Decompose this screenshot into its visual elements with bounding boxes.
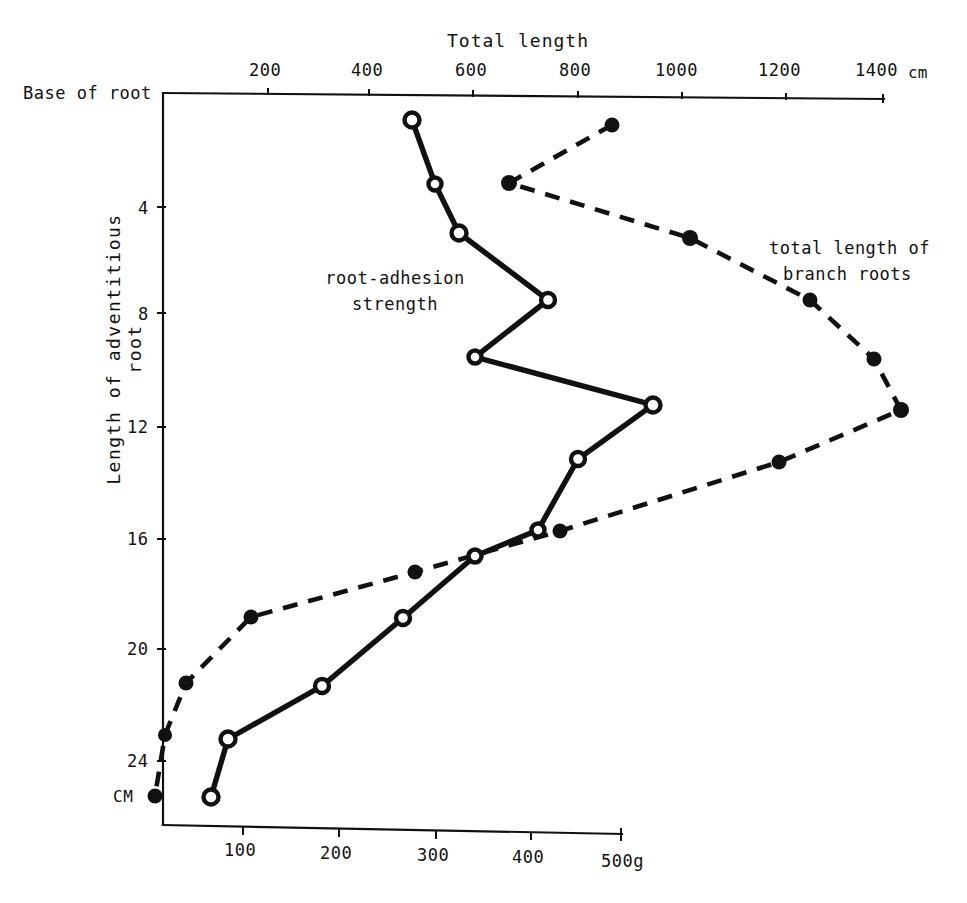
data-point-filled <box>158 728 172 742</box>
data-point-filled <box>772 455 787 470</box>
data-point-open <box>204 790 219 805</box>
data-point-open <box>452 226 467 241</box>
data-point-open <box>571 452 585 466</box>
data-point-filled <box>179 676 194 691</box>
data-point-filled <box>803 293 818 308</box>
data-point-filled <box>408 565 423 580</box>
bottom-axis-line <box>163 825 622 834</box>
left-axis-ticks <box>157 207 166 761</box>
data-point-open <box>469 351 482 364</box>
series-branch-roots-markers <box>148 118 910 804</box>
data-point-open <box>405 113 420 128</box>
data-point-filled <box>244 610 259 625</box>
data-point-open <box>541 293 555 307</box>
series-root-adhesion-markers <box>204 113 661 805</box>
data-point-open <box>396 611 410 625</box>
data-point-open <box>469 550 482 563</box>
data-point-open <box>315 679 329 693</box>
data-point-filled <box>501 175 517 191</box>
data-point-filled <box>148 789 163 804</box>
data-point-filled <box>553 524 568 539</box>
series-branch-roots-line <box>155 125 901 796</box>
data-point-open <box>221 732 236 747</box>
plot-area <box>0 0 967 903</box>
data-point-filled <box>605 118 620 133</box>
data-point-open <box>532 524 545 537</box>
data-point-filled <box>867 352 882 367</box>
chart-container: Total length 200 400 600 800 1000 1200 1… <box>0 0 967 903</box>
data-point-open <box>646 398 661 413</box>
bottom-axis-ticks <box>243 827 621 841</box>
data-point-filled <box>682 230 698 246</box>
data-point-filled <box>893 402 909 418</box>
data-point-open <box>429 178 442 191</box>
top-axis-line <box>163 93 884 99</box>
